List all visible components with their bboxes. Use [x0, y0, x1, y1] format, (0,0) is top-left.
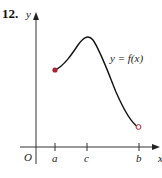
open-endpoint-icon — [136, 125, 141, 130]
curve-label: y = f(x) — [109, 52, 143, 65]
svg-text:c: c — [84, 152, 89, 164]
tick-c: c — [84, 143, 89, 164]
svg-text:b: b — [136, 152, 142, 164]
origin-label: O — [24, 151, 32, 163]
problem-number: 12. — [2, 6, 18, 21]
x-axis-arrow-icon — [152, 144, 160, 150]
y-axis-label: y — [25, 8, 31, 20]
function-curve — [55, 37, 138, 127]
closed-endpoint-icon — [52, 67, 57, 72]
function-graph: 12. y x O a c b y = f(x) — [0, 0, 162, 178]
x-axis-label: x — [157, 152, 162, 164]
tick-a: a — [52, 143, 58, 164]
y-axis-arrow-icon — [33, 12, 39, 20]
tick-b: b — [136, 143, 142, 164]
svg-text:a: a — [52, 152, 58, 164]
